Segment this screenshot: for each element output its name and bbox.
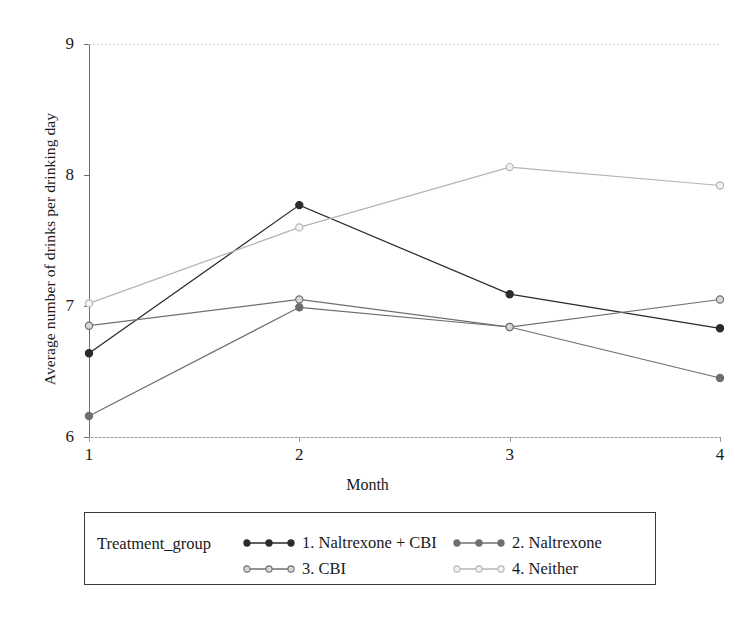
- series-line: [89, 205, 720, 353]
- legend-key-series-3: [243, 563, 295, 575]
- series-1: [85, 202, 723, 357]
- series-4: [85, 164, 723, 308]
- series-line: [89, 307, 720, 416]
- data-point: [506, 164, 513, 171]
- data-point: [716, 182, 723, 189]
- data-point: [716, 296, 723, 303]
- data-point: [85, 300, 92, 307]
- legend-label-2: 2. Naltrexone: [512, 533, 602, 553]
- x-axis-title: Month: [0, 476, 735, 494]
- series-line: [89, 167, 720, 303]
- data-point: [85, 350, 92, 357]
- legend-key-series-2: [453, 537, 505, 549]
- legend-key-series-1: [243, 537, 295, 549]
- legend-label-3: 3. CBI: [302, 559, 346, 579]
- chart-legend: Treatment_group 1. Naltrexone + CBI 2. N…: [84, 512, 656, 585]
- data-point: [506, 291, 513, 298]
- data-point: [716, 325, 723, 332]
- legend-entry-1[interactable]: 1. Naltrexone + CBI: [243, 532, 437, 554]
- series-2: [85, 304, 723, 420]
- data-point: [296, 224, 303, 231]
- legend-title: Treatment_group: [97, 534, 211, 554]
- legend-key-series-4: [453, 563, 505, 575]
- chart-figure: Average number of drinks per drinking da…: [0, 0, 735, 617]
- data-point: [716, 374, 723, 381]
- data-point: [296, 304, 303, 311]
- data-point: [85, 322, 92, 329]
- legend-entry-4[interactable]: 4. Neither: [453, 558, 578, 580]
- legend-label-4: 4. Neither: [512, 559, 578, 579]
- data-point: [506, 323, 513, 330]
- legend-entry-2[interactable]: 2. Naltrexone: [453, 532, 602, 554]
- data-point: [296, 202, 303, 209]
- data-point: [85, 412, 92, 419]
- data-point: [296, 296, 303, 303]
- legend-entry-3[interactable]: 3. CBI: [243, 558, 346, 580]
- legend-label-1: 1. Naltrexone + CBI: [302, 533, 437, 553]
